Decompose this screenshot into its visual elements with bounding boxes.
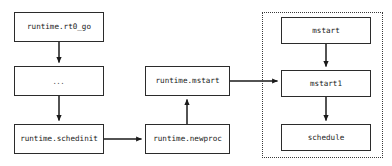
node-label: mstart1 bbox=[310, 80, 342, 88]
node-ellipsis[interactable]: ... bbox=[14, 66, 104, 96]
node-mstart[interactable]: mstart bbox=[281, 17, 371, 44]
diagram-canvas: runtime.rt0_go ... runtime.schedinit run… bbox=[0, 0, 392, 166]
node-label: mstart bbox=[312, 27, 339, 35]
node-runtime-newproc[interactable]: runtime.newproc bbox=[145, 124, 230, 154]
node-label: runtime.rt0_go bbox=[27, 23, 91, 31]
node-runtime-mstart[interactable]: runtime.mstart bbox=[145, 66, 230, 96]
node-mstart1[interactable]: mstart1 bbox=[281, 70, 371, 97]
node-label: ... bbox=[53, 77, 65, 86]
node-label: runtime.mstart bbox=[155, 77, 219, 85]
node-label: runtime.schedinit bbox=[20, 135, 98, 143]
node-schedule[interactable]: schedule bbox=[281, 124, 371, 151]
node-label: runtime.newproc bbox=[153, 135, 222, 143]
node-runtime-schedinit[interactable]: runtime.schedinit bbox=[14, 124, 104, 154]
node-label: schedule bbox=[308, 134, 345, 142]
node-runtime-rt0-go[interactable]: runtime.rt0_go bbox=[14, 12, 104, 42]
